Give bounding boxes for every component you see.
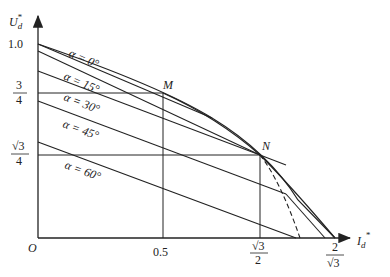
x-axis-label: Id* — [356, 230, 371, 250]
y-axis-label: Ud* — [9, 12, 23, 31]
point-n-label: N — [261, 139, 271, 153]
y-tick-3-4-den: 4 — [16, 93, 22, 107]
y-tick-1: 1.0 — [8, 37, 23, 51]
label-alpha-45: α = 45° — [61, 117, 101, 143]
x-tick-half: 0.5 — [153, 245, 168, 259]
x-tick-2-root3-den: √3 — [327, 256, 340, 270]
y-tick-root3-4-den: 4 — [16, 154, 22, 168]
y-tick-3-4-num: 3 — [16, 78, 22, 92]
line-alpha-45 — [38, 101, 286, 194]
line-alpha-45-ext — [286, 194, 325, 238]
boundary-curve-upper — [163, 93, 335, 238]
x-tick-root3-2-den: 2 — [255, 253, 261, 267]
dashed-curve — [260, 155, 300, 238]
line-alpha-30-ext — [260, 155, 286, 165]
diagram-canvas: Ud* Id* O 1.0 3 4 √3 4 0.5 √3 2 2 √3 M N… — [0, 0, 390, 277]
boundary-curve — [38, 44, 335, 238]
origin-label: O — [28, 241, 37, 255]
label-alpha-60: α = 60° — [63, 158, 103, 184]
x-tick-2-root3-num: 2 — [332, 240, 338, 254]
point-m-label: M — [162, 78, 174, 92]
x-tick-root3-2-num: √3 — [252, 239, 265, 253]
y-tick-root3-4-num: √3 — [12, 139, 25, 153]
line-alpha-60 — [38, 142, 296, 238]
